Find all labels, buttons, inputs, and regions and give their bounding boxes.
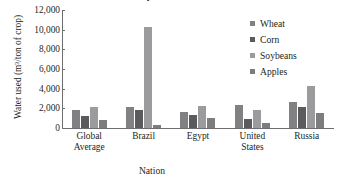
- chart-legend: WheatCornSoybeansApples: [250, 15, 350, 79]
- bar-soybeans: [198, 106, 206, 128]
- legend-swatch-icon: [250, 37, 255, 42]
- y-tick-label: 8,000: [39, 45, 60, 54]
- x-category-label: Brazil: [116, 131, 170, 142]
- legend-label: Apples: [260, 66, 287, 77]
- legend-item: Soybeans: [250, 47, 350, 63]
- legend-label: Wheat: [260, 18, 285, 29]
- bar-apples: [99, 120, 107, 128]
- y-tick-label: 0: [55, 124, 60, 133]
- bar-soybeans: [253, 110, 261, 128]
- bar-group: [171, 10, 225, 128]
- bar-corn: [298, 107, 306, 128]
- bar-wheat: [126, 107, 134, 128]
- bar-apples: [207, 118, 215, 128]
- y-tick-label: 10,000: [34, 25, 60, 34]
- bar-apples: [153, 125, 161, 128]
- bar-group: [62, 10, 116, 128]
- bar-soybeans: [144, 27, 152, 128]
- bar-corn: [81, 116, 89, 128]
- legend-swatch-icon: [250, 69, 255, 74]
- y-tick-label: 12,000: [34, 6, 60, 15]
- bar-corn: [135, 110, 143, 128]
- x-axis-line: [62, 128, 334, 129]
- x-axis-title: Nation: [62, 165, 242, 176]
- bar-chart: Water used (m³/ton of crop) 12,00010,000…: [0, 5, 354, 187]
- bar-apples: [262, 123, 270, 128]
- legend-label: Corn: [260, 34, 279, 45]
- y-tick-label: 4,000: [39, 84, 60, 93]
- x-axis-category-labels: GlobalAverageBrazilEgyptUnitedStatesRuss…: [62, 131, 334, 163]
- plot-area: [62, 10, 222, 128]
- bar-soybeans: [90, 107, 98, 128]
- bar-soybeans: [307, 86, 315, 128]
- x-category-label: Egypt: [171, 131, 225, 142]
- bar-wheat: [289, 102, 297, 128]
- legend-swatch-icon: [250, 21, 255, 26]
- legend-item: Wheat: [250, 15, 350, 31]
- y-tick-label: 2,000: [39, 104, 60, 113]
- legend-label: Soybeans: [260, 50, 297, 61]
- legend-item: Apples: [250, 63, 350, 79]
- bar-group: [116, 10, 170, 128]
- y-axis-tick-labels: 12,00010,0008,0006,0004,0002,0000: [14, 10, 60, 128]
- chart-title: Water Use for Various Crops: [2, 0, 160, 1]
- bar-corn: [244, 119, 252, 128]
- legend-item: Corn: [250, 31, 350, 47]
- y-tick-label: 6,000: [39, 65, 60, 74]
- x-category-label: Russia: [280, 131, 334, 142]
- bar-corn: [189, 115, 197, 128]
- legend-swatch-icon: [250, 53, 255, 58]
- x-category-label: GlobalAverage: [62, 131, 116, 153]
- bar-wheat: [72, 110, 80, 128]
- bar-wheat: [235, 105, 243, 128]
- x-category-label: UnitedStates: [225, 131, 279, 153]
- bar-apples: [316, 113, 324, 128]
- bar-wheat: [180, 112, 188, 128]
